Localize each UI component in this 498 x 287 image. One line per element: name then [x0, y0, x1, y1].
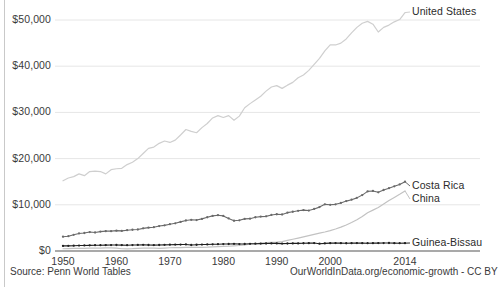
series-marker	[233, 220, 235, 222]
series-marker	[345, 200, 347, 202]
series-marker	[62, 236, 64, 238]
series-marker	[276, 213, 278, 215]
series-marker	[302, 209, 304, 211]
series-marker	[244, 218, 246, 220]
series-marker	[99, 230, 101, 232]
series-line-united-states	[63, 13, 405, 181]
gridlines-group	[55, 20, 480, 205]
y-axis-tick-3: $20,000	[0, 152, 51, 164]
series-markers-group	[62, 181, 406, 248]
series-marker	[377, 242, 379, 244]
series-marker	[121, 244, 123, 246]
y-axis-tick-4: $10,000	[0, 198, 51, 210]
y-axis-tick-1: $40,000	[0, 59, 51, 71]
series-marker	[94, 244, 96, 246]
series-paths-group	[63, 13, 405, 249]
series-marker	[244, 243, 246, 245]
series-line-costa-rica	[63, 182, 405, 237]
series-marker	[211, 243, 213, 245]
series-label-costa-rica: Costa Rica	[412, 179, 464, 191]
series-marker	[73, 245, 75, 247]
series-marker	[110, 230, 112, 232]
series-marker	[110, 244, 112, 246]
series-marker	[195, 244, 197, 246]
series-marker	[174, 222, 176, 224]
series-marker	[329, 204, 331, 206]
series-marker	[350, 242, 352, 244]
series-marker	[131, 229, 133, 231]
series-marker	[286, 212, 288, 214]
series-marker	[265, 215, 267, 217]
series-marker	[94, 231, 96, 233]
series-marker	[356, 197, 358, 199]
series-label-united-states: United States	[412, 5, 476, 17]
series-marker	[249, 218, 251, 220]
series-marker	[350, 199, 352, 201]
y-axis-tick-0: $50,000	[0, 13, 51, 25]
series-marker	[137, 244, 139, 246]
series-marker	[222, 243, 224, 245]
series-marker	[318, 206, 320, 208]
series-marker	[318, 243, 320, 245]
series-marker	[137, 228, 139, 230]
series-marker	[105, 244, 107, 246]
series-marker	[372, 190, 374, 192]
series-marker	[89, 231, 91, 233]
series-marker	[345, 242, 347, 244]
series-marker	[286, 242, 288, 244]
series-marker	[313, 208, 315, 210]
series-marker	[142, 227, 144, 229]
series-marker	[233, 243, 235, 245]
series-marker	[217, 214, 219, 216]
series-marker	[393, 242, 395, 244]
series-marker	[89, 244, 91, 246]
series-marker	[190, 219, 192, 221]
x-axis-tick-2: 1970	[147, 255, 193, 267]
series-marker	[115, 244, 117, 246]
series-marker	[399, 242, 401, 244]
series-marker	[83, 244, 85, 246]
series-marker	[126, 229, 128, 231]
series-marker	[382, 189, 384, 191]
series-marker	[142, 244, 144, 246]
series-marker	[217, 243, 219, 245]
series-marker	[211, 215, 213, 217]
series-marker	[158, 225, 160, 227]
series-marker	[115, 230, 117, 232]
series-marker	[131, 244, 133, 246]
series-marker	[281, 213, 283, 215]
series-marker	[254, 243, 256, 245]
series-marker	[62, 245, 64, 247]
series-marker	[254, 216, 256, 218]
label-leader-line	[405, 182, 410, 186]
series-marker	[260, 242, 262, 244]
series-marker	[297, 242, 299, 244]
series-marker	[121, 230, 123, 232]
series-marker	[78, 244, 80, 246]
series-marker	[292, 211, 294, 213]
series-marker	[105, 230, 107, 232]
label-leader-lines-group	[405, 12, 410, 243]
series-marker	[340, 242, 342, 244]
series-marker	[99, 244, 101, 246]
series-marker	[78, 232, 80, 234]
series-marker	[153, 244, 155, 246]
series-marker	[206, 243, 208, 245]
series-marker	[308, 209, 310, 211]
series-marker	[126, 244, 128, 246]
series-marker	[393, 185, 395, 187]
series-marker	[185, 219, 187, 221]
series-marker	[67, 235, 69, 237]
label-leader-line	[405, 12, 410, 13]
series-marker	[382, 242, 384, 244]
series-marker	[83, 232, 85, 234]
series-marker	[147, 227, 149, 229]
series-marker	[270, 214, 272, 216]
series-marker	[153, 226, 155, 228]
series-label-guinea-bissau: Guinea-Bissau	[412, 236, 482, 248]
series-marker	[308, 242, 310, 244]
series-marker	[324, 242, 326, 244]
series-marker	[334, 203, 336, 205]
series-marker	[228, 243, 230, 245]
series-marker	[361, 242, 363, 244]
